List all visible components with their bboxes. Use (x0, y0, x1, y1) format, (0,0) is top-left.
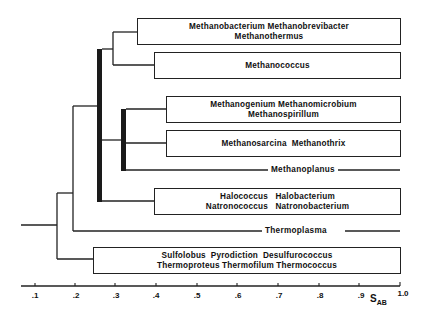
leaf-line: Methanosarcina Methanothrix (222, 139, 346, 149)
x-tick-label: 1.0 (397, 289, 408, 298)
leaf-box-methanococcales: Methanococcus (154, 52, 401, 79)
leaf-line: Methanospirillum (248, 110, 319, 120)
x-axis-title-main: S (370, 293, 377, 304)
dendrogram (0, 0, 426, 323)
leaf-box-halobacteriales: Halococcus Halobacterium Natronococcus N… (154, 188, 401, 215)
x-axis-title: SAB (370, 293, 387, 306)
leaf-line: Thermoproteus Thermofilum Thermococcus (157, 261, 337, 271)
x-tick-label: .9 (358, 291, 365, 300)
x-tick-label: .8 (317, 291, 324, 300)
leaf-box-thermoproteales: Sulfolobus Pyrodiction Desulfurococcus T… (93, 247, 401, 274)
leaf-line: Methanobacterium Methanobrevibacter (189, 22, 349, 32)
x-tick-label: .7 (276, 291, 283, 300)
x-tick-label: .4 (153, 291, 160, 300)
leaf-line: Halococcus Halobacterium (220, 192, 335, 202)
leaf-box-methanobacteriales: Methanobacterium Methanobrevibacter Meth… (137, 18, 401, 45)
leaf-line: Natronococcus Natronobacterium (206, 202, 349, 212)
leaf-box-methanomicrobiales: Methanogenium Methanomicrobium Methanosp… (166, 96, 401, 123)
leaf-line: Sulfolobus Pyrodiction Desulfurococcus (162, 251, 333, 261)
leaf-line: Methanococcus (245, 61, 309, 71)
x-axis-title-sub: AB (377, 299, 387, 306)
x-tick-label: .2 (73, 291, 80, 300)
leaf-label-methanoplanus: Methanoplanus (268, 165, 338, 175)
leaf-box-methanosarcinaceae: Methanosarcina Methanothrix (166, 130, 401, 157)
x-tick-label: .5 (194, 291, 201, 300)
x-tick-label: .1 (32, 291, 39, 300)
leaf-line: Methanothermus (235, 32, 304, 42)
uncertainty-bar-0.32 (121, 109, 126, 171)
uncertainty-bar-0.26 (97, 49, 102, 202)
leaf-line: Methanogenium Methanomicrobium (210, 100, 357, 110)
leaf-label-thermoplasma: Thermoplasma (262, 226, 330, 236)
x-tick-label: .3 (113, 291, 120, 300)
x-tick-label: .6 (235, 291, 242, 300)
